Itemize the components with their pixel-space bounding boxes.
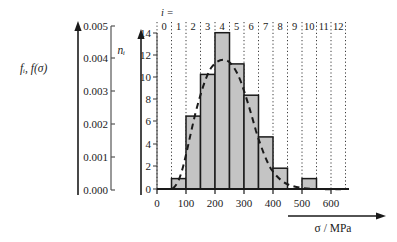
class-index-header: i = (161, 7, 174, 18)
histogram-svg: fᵢ, f(σ) 0.000 0.001 0.002 0.003 0.004 0… (0, 0, 397, 242)
class-index-8: 8 (278, 21, 283, 32)
class-index-5: 5 (234, 21, 239, 32)
class-index-6: 6 (249, 21, 254, 32)
table-row[interactable] (201, 74, 216, 189)
left-tick-label-4: 0.004 (83, 52, 108, 64)
count-tick-label-2: 2 (146, 160, 152, 172)
class-index-7: 7 (263, 21, 268, 32)
class-index-12: 12 (333, 21, 344, 32)
x-tick-label-200: 200 (207, 197, 224, 209)
x-tick-label-100: 100 (178, 197, 195, 209)
left-tick-label-1: 0.001 (83, 151, 108, 163)
count-tick-label-0: 0 (146, 183, 152, 195)
count-axis-label: nᵢ (117, 44, 125, 56)
count-tick-label-8: 8 (146, 93, 152, 105)
histogram-bars (172, 33, 317, 189)
left-tick-label-2: 0.002 (83, 118, 108, 130)
table-row[interactable] (186, 116, 201, 189)
left-axis-tick-labels: 0.000 0.001 0.002 0.003 0.004 0.005 (83, 20, 108, 196)
class-index-4: 4 (220, 21, 226, 32)
left-axis-arrowhead (74, 21, 81, 31)
count-tick-label-10: 10 (140, 71, 152, 83)
table-row[interactable] (215, 33, 230, 189)
x-tick-label-500: 500 (294, 197, 311, 209)
count-tick-label-12: 12 (140, 49, 151, 61)
left-axis-label: fᵢ, f(σ) (20, 62, 47, 75)
x-tick-label-600: 600 (323, 197, 340, 209)
x-axis-caption-arrowhead (376, 212, 386, 219)
plot-area: i = 0 1 2 3 4 5 6 7 8 9 10 11 12 (154, 7, 386, 234)
count-tick-label-4: 4 (146, 138, 152, 150)
x-tick-label-300: 300 (236, 197, 253, 209)
left-tick-label-3: 0.003 (83, 85, 108, 97)
x-axis-label: σ / MPa (315, 222, 352, 234)
class-index-2: 2 (191, 21, 196, 32)
class-index-1: 1 (176, 21, 181, 32)
class-index-0: 0 (162, 21, 167, 32)
table-row[interactable] (259, 137, 274, 189)
class-index-10: 10 (304, 21, 315, 32)
left-tick-label-5: 0.005 (83, 20, 108, 32)
left-density-axis: fᵢ, f(σ) 0.000 0.001 0.002 0.003 0.004 0… (20, 20, 115, 196)
class-index-9: 9 (292, 21, 297, 32)
x-tick-label-400: 400 (265, 197, 282, 209)
x-axis-tick-labels: 0 100 200 300 400 500 600 (154, 197, 340, 209)
histogram-figure: fᵢ, f(σ) 0.000 0.001 0.002 0.003 0.004 0… (0, 0, 397, 242)
class-index-11: 11 (319, 21, 329, 32)
count-tick-label-14: 14 (140, 27, 152, 39)
left-tick-label-0: 0.000 (83, 184, 108, 196)
table-row[interactable] (244, 95, 259, 189)
count-axis: nᵢ 0 2 4 6 8 10 12 14 (117, 27, 157, 195)
count-tick-label-6: 6 (146, 115, 152, 127)
class-index-3: 3 (205, 21, 210, 32)
x-tick-label-0: 0 (154, 197, 160, 209)
